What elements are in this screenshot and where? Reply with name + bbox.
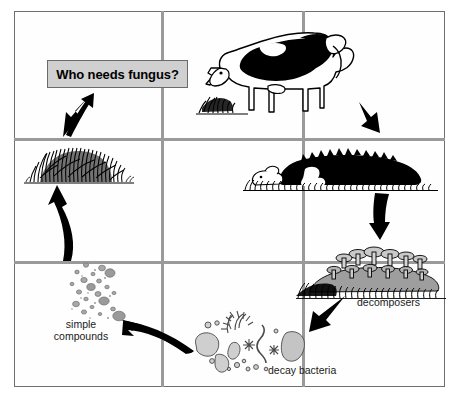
living-cow-grazing-illustration: [196, 16, 356, 121]
grass-tuft-illustration: [24, 144, 136, 186]
arrow-grass-to-title: [61, 93, 95, 139]
label-decomposers: decomposers: [357, 296, 420, 308]
arrow-cow-to-dead-cow: [356, 100, 388, 138]
decomposers-mushrooms-illustration: [296, 246, 448, 300]
simple-compounds-illustration: [62, 262, 134, 322]
arrow-bacteria-to-compounds: [122, 317, 196, 355]
label-decay-bacteria: decay bacteria: [268, 364, 336, 376]
arrow-decomposers-to-bacteria: [300, 294, 348, 340]
label-simple-compounds: simple compounds: [44, 318, 118, 342]
diagram-canvas: Who needs fungus?: [0, 0, 459, 399]
title-text: Who needs fungus?: [56, 67, 179, 82]
arrow-dead-cow-to-decomposers: [369, 192, 397, 242]
arrow-compounds-to-grass: [48, 185, 82, 263]
dead-cow-illustration: [243, 142, 438, 192]
title-box: Who needs fungus?: [47, 60, 188, 88]
